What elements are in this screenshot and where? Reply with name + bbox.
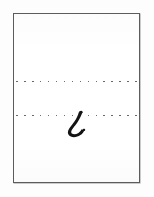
guide-dot — [24, 115, 26, 117]
guide-dot — [135, 115, 137, 117]
guide-dot — [48, 115, 50, 117]
guide-dot — [64, 81, 66, 83]
guide-dot — [56, 81, 58, 83]
guide-dot — [96, 81, 98, 83]
guide-dot — [103, 81, 105, 83]
guide-dot — [96, 115, 98, 117]
guide-dot — [24, 81, 26, 83]
guide-dot — [135, 81, 137, 83]
scan-canvas: Handwriting sample card — [0, 0, 154, 197]
handwritten-glyph — [61, 109, 91, 141]
guide-dot — [119, 115, 121, 117]
upper-guide-line — [16, 80, 137, 83]
guide-dot — [72, 81, 74, 83]
guide-dot — [32, 115, 34, 117]
guide-dot — [103, 115, 105, 117]
guide-dot — [32, 81, 34, 83]
guide-dot — [48, 81, 50, 83]
guide-dot — [16, 115, 18, 117]
guide-dot — [111, 115, 113, 117]
guide-dot — [111, 81, 113, 83]
guide-dot — [80, 81, 82, 83]
document-title: Handwriting sample card — [0, 0, 1, 1]
guide-dot — [88, 81, 90, 83]
guide-dot — [56, 115, 58, 117]
page-card — [13, 13, 140, 183]
guide-dot — [127, 115, 129, 117]
guide-dot — [40, 115, 42, 117]
guide-dot — [119, 81, 121, 83]
guide-dot — [16, 81, 18, 83]
guide-dot — [127, 81, 129, 83]
guide-dot — [40, 81, 42, 83]
